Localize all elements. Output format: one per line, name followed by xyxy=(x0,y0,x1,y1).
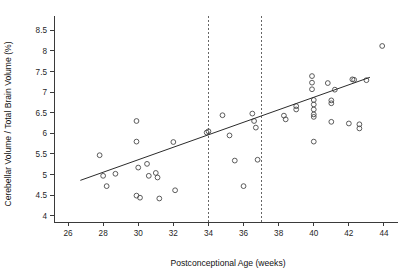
x-tick-label: 26 xyxy=(63,229,73,238)
axes-group xyxy=(54,16,398,222)
x-tick-label: 34 xyxy=(204,229,214,238)
x-tick-label: 42 xyxy=(344,229,354,238)
x-tick-label: 38 xyxy=(274,229,284,238)
data-point xyxy=(104,184,109,189)
data-point xyxy=(97,153,102,158)
data-point xyxy=(311,139,316,144)
data-point xyxy=(232,158,237,163)
data-point xyxy=(253,125,258,130)
x-tick-label: 28 xyxy=(99,229,109,238)
x-tick-labels-group: 26283032343638404244 xyxy=(63,229,388,238)
x-axis-title: Postconceptional Age (weeks) xyxy=(170,258,285,268)
data-point xyxy=(171,140,176,145)
tick-marks-group xyxy=(50,30,384,226)
data-point xyxy=(153,171,158,176)
x-tick-label: 32 xyxy=(169,229,179,238)
data-point xyxy=(134,139,139,144)
data-point xyxy=(310,87,315,92)
regression-line-group xyxy=(80,77,370,180)
x-tick-label: 44 xyxy=(379,229,389,238)
data-point xyxy=(241,184,246,189)
y-tick-label: 4.5 xyxy=(36,191,48,200)
y-tick-label: 6 xyxy=(42,129,47,138)
data-point xyxy=(310,74,315,79)
x-tick-label: 36 xyxy=(239,229,249,238)
x-tick-label: 30 xyxy=(134,229,144,238)
y-tick-label: 8 xyxy=(42,47,47,56)
y-tick-labels-group: 44.555.566.577.588.5 xyxy=(36,26,48,221)
data-point xyxy=(157,196,162,201)
data-point xyxy=(220,113,225,118)
data-point xyxy=(155,175,160,180)
data-point xyxy=(329,101,334,106)
data-point xyxy=(113,171,118,176)
y-tick-label: 5.5 xyxy=(36,150,48,159)
y-tick-label: 5 xyxy=(42,171,47,180)
y-axis-title: Cerebellar Volume / Total Brain Volume (… xyxy=(3,41,13,206)
data-point xyxy=(380,44,385,49)
data-point xyxy=(134,119,139,124)
scatter-plot-figure: 26283032343638404244 44.555.566.577.588.… xyxy=(0,0,409,274)
data-point xyxy=(346,121,351,126)
data-point xyxy=(136,165,141,170)
data-points-group xyxy=(97,44,384,201)
data-point xyxy=(294,107,299,112)
data-point xyxy=(255,157,260,162)
data-point xyxy=(227,133,232,138)
y-tick-label: 8.5 xyxy=(36,26,48,35)
chart-canvas: 26283032343638404244 44.555.566.577.588.… xyxy=(0,0,409,274)
data-point xyxy=(173,188,178,193)
data-point xyxy=(325,81,330,86)
data-point xyxy=(311,107,316,112)
y-tick-label: 6.5 xyxy=(36,109,48,118)
y-tick-label: 7 xyxy=(42,88,47,97)
data-point xyxy=(145,161,150,166)
data-point xyxy=(146,173,151,178)
y-tick-label: 4 xyxy=(42,212,47,221)
regression-line xyxy=(80,77,370,180)
data-point xyxy=(101,173,106,178)
x-tick-label: 40 xyxy=(309,229,319,238)
y-tick-label: 7.5 xyxy=(36,68,48,77)
data-point xyxy=(310,80,315,85)
data-point xyxy=(329,119,334,124)
data-point xyxy=(250,111,255,116)
